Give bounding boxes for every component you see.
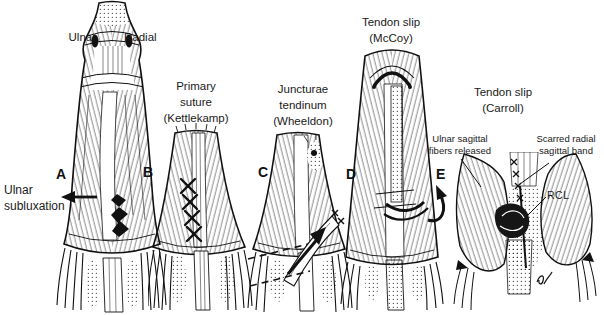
panel-letter-a: A xyxy=(56,166,66,182)
ulnar-subluxation-label: Ulnar subluxation xyxy=(4,183,70,214)
artist-signature xyxy=(537,272,552,284)
panel-b-title: Primary suture (Kettlekamp) xyxy=(146,78,246,126)
tendon-slip-band xyxy=(391,86,402,202)
redirect-arrowhead xyxy=(436,185,447,200)
scarred-radial-band-mound xyxy=(541,154,592,265)
panel-letter-e: E xyxy=(436,166,445,182)
panel-letter-c: C xyxy=(258,164,268,180)
finger-illustration-e xyxy=(448,152,604,315)
ulnar-label: Ulnar xyxy=(58,29,96,45)
scarred-radial-band-label: Scarred radial sagittal band xyxy=(528,133,604,157)
panel-d-title: Tendon slip (McCoy) xyxy=(341,14,441,46)
panel-c-title: Juncturae tendinum (Wheeldon) xyxy=(253,81,353,129)
radial-label: Radial xyxy=(124,29,168,45)
finger-illustration-b xyxy=(148,120,258,315)
panel-letter-d: D xyxy=(346,166,356,182)
figure: Ulnar Radial Ulnar subluxation Primary s… xyxy=(0,0,604,315)
rcl-label: RCL xyxy=(547,187,581,203)
ulnar-sagittal-fibers-label: Ulnar sagittal fibers released xyxy=(420,133,500,157)
panel-e-title: Tendon slip (Carroll) xyxy=(453,84,553,116)
panel-letter-b: B xyxy=(143,164,153,180)
